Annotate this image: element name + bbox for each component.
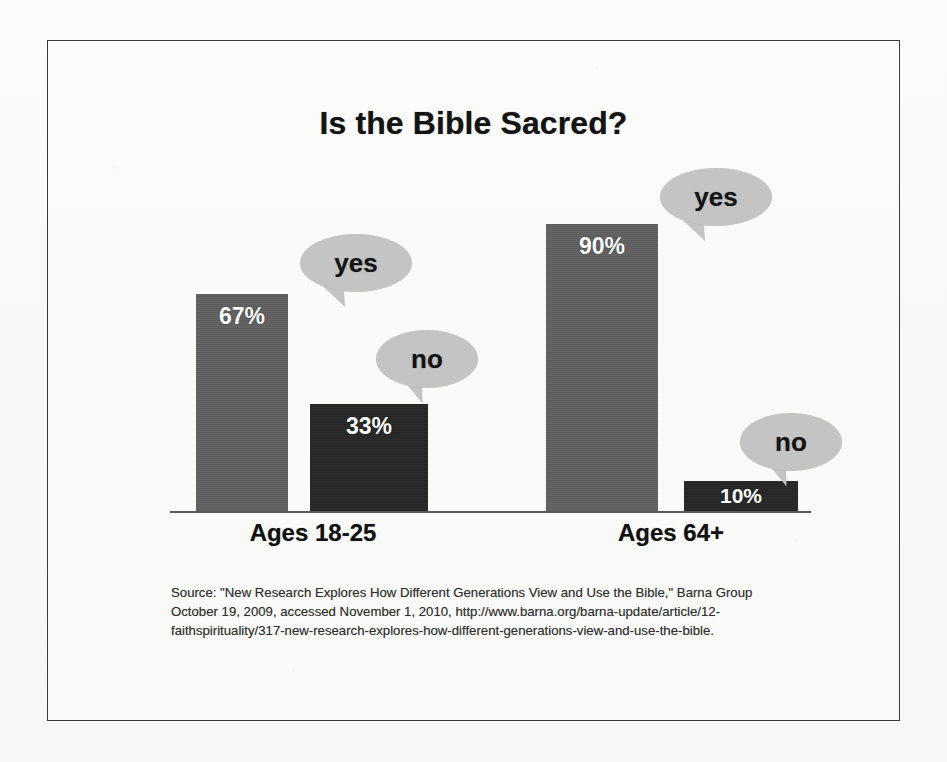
bar-value-label: 67% [196, 303, 288, 330]
x-axis-baseline [170, 511, 811, 513]
source-line-1: Source: "New Research Explores How Diffe… [171, 583, 796, 602]
callout-bubble-ages-18-25-yes: yes [300, 234, 412, 326]
bar-value-label: 90% [546, 233, 658, 260]
callout-label: no [740, 413, 842, 471]
callout-label: yes [660, 168, 772, 226]
group-label-ages-18-25: Ages 18-25 [188, 519, 438, 547]
callout-bubble-ages-18-25-no: no [376, 330, 478, 422]
source-line-3: faithspirituality/317-new-research-explo… [171, 621, 796, 640]
group-label-ages-64-plus: Ages 64+ [546, 519, 796, 547]
callout-label: yes [300, 234, 412, 292]
callout-label: no [376, 330, 478, 388]
bar-ages-18-25-yes: 67% [196, 294, 288, 512]
bar-chart-plot-area: 67% 33% 90% 10% Ages 18-25 Ages 64+ yes … [0, 0, 947, 762]
source-citation: Source: "New Research Explores How Diffe… [171, 583, 796, 640]
callout-bubble-ages-64-plus-no: no [740, 413, 842, 505]
callout-bubble-ages-64-plus-yes: yes [660, 168, 772, 260]
bar-ages-64-plus-yes: 90% [546, 224, 658, 512]
source-line-2: October 19, 2009, accessed November 1, 2… [171, 602, 796, 621]
